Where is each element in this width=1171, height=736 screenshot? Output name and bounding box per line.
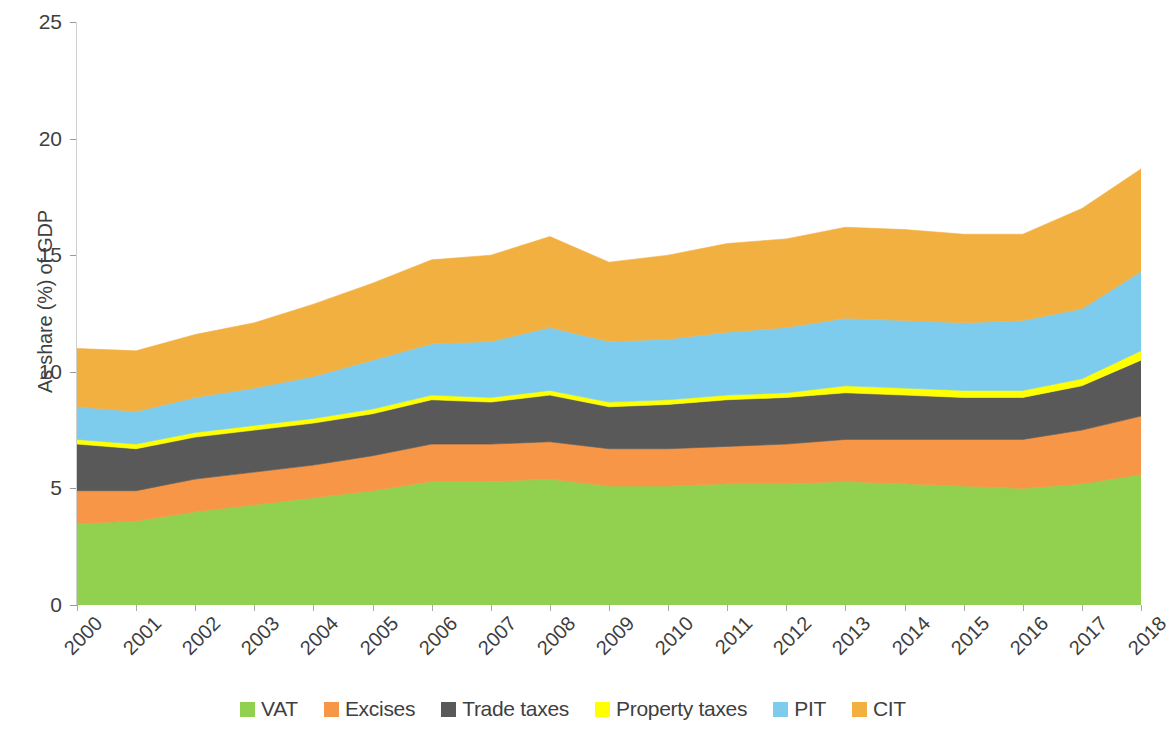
y-tick-label: 25 <box>16 10 62 34</box>
y-tick-mark <box>70 605 77 606</box>
x-tick-mark <box>77 605 78 611</box>
y-tick-label: 15 <box>16 243 62 267</box>
legend-item-trade-taxes[interactable]: Trade taxes <box>441 697 569 721</box>
legend-swatch-icon <box>324 702 339 717</box>
x-tick-label: 2007 <box>455 612 521 678</box>
legend-item-property-taxes[interactable]: Property taxes <box>595 697 747 721</box>
legend-swatch-icon <box>441 702 456 717</box>
x-tick-label: 2003 <box>219 612 285 678</box>
area-series-svg <box>77 22 1141 605</box>
x-tick-label: 2009 <box>574 612 640 678</box>
y-tick-label: 5 <box>16 476 62 500</box>
x-tick-label: 2005 <box>337 612 403 678</box>
x-tick-label: 2001 <box>101 612 167 678</box>
x-tick-mark <box>373 605 374 611</box>
x-tick-label: 2000 <box>42 612 108 678</box>
x-tick-label: 2016 <box>987 612 1053 678</box>
legend-label: VAT <box>261 697 298 721</box>
x-tick-mark <box>1023 605 1024 611</box>
chart-legend: VATExcisesTrade taxesProperty taxesPITCI… <box>0 697 1146 721</box>
x-tick-label: 2008 <box>514 612 580 678</box>
legend-item-cit[interactable]: CIT <box>852 697 906 721</box>
legend-label: Property taxes <box>616 697 747 721</box>
x-tick-mark <box>905 605 906 611</box>
x-tick-mark <box>845 605 846 611</box>
y-tick-label: 20 <box>16 127 62 151</box>
x-tick-mark <box>313 605 314 611</box>
x-tick-mark <box>727 605 728 611</box>
x-tick-label: 2006 <box>396 612 462 678</box>
legend-swatch-icon <box>595 702 610 717</box>
x-tick-label: 2017 <box>1046 612 1112 678</box>
x-tick-mark <box>609 605 610 611</box>
x-tick-mark <box>491 605 492 611</box>
x-tick-label: 2002 <box>160 612 226 678</box>
x-tick-mark <box>668 605 669 611</box>
y-tick-label: 10 <box>16 360 62 384</box>
x-tick-label: 2011 <box>692 612 758 678</box>
legend-item-vat[interactable]: VAT <box>240 697 298 721</box>
x-tick-mark <box>254 605 255 611</box>
x-tick-mark <box>136 605 137 611</box>
x-tick-mark <box>550 605 551 611</box>
legend-label: Trade taxes <box>462 697 569 721</box>
legend-item-excises[interactable]: Excises <box>324 697 415 721</box>
x-tick-label: 2010 <box>633 612 699 678</box>
x-tick-label: 2012 <box>751 612 817 678</box>
x-tick-mark <box>786 605 787 611</box>
legend-label: CIT <box>873 697 906 721</box>
legend-swatch-icon <box>240 702 255 717</box>
x-tick-mark <box>1082 605 1083 611</box>
y-tick-label: 0 <box>16 593 62 617</box>
x-tick-label: 2014 <box>869 612 935 678</box>
legend-label: Excises <box>345 697 415 721</box>
x-tick-label: 2013 <box>810 612 876 678</box>
x-tick-label: 2018 <box>1106 612 1171 678</box>
x-tick-mark <box>432 605 433 611</box>
y-axis-title: As share (%) of GDP <box>34 152 57 452</box>
x-tick-mark <box>964 605 965 611</box>
x-tick-mark <box>1141 605 1142 611</box>
legend-label: PIT <box>794 697 826 721</box>
plot-area <box>77 22 1141 605</box>
legend-item-pit[interactable]: PIT <box>773 697 826 721</box>
x-tick-mark <box>195 605 196 611</box>
x-tick-label: 2004 <box>278 612 344 678</box>
legend-swatch-icon <box>773 702 788 717</box>
x-tick-label: 2015 <box>928 612 994 678</box>
legend-swatch-icon <box>852 702 867 717</box>
